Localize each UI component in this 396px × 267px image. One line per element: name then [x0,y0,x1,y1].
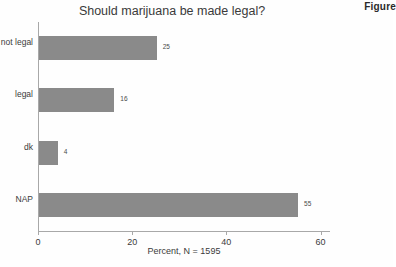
category-label-not-legal: not legal [0,37,33,47]
x-tick-mark [321,231,322,235]
bar-dk [39,141,58,165]
category-label-dk: dk [0,142,33,152]
category-label-nap: NAP [0,194,33,204]
bar-not-legal [39,36,157,60]
figure-caption: Figure [364,1,396,12]
bar-value-label: 55 [304,200,311,207]
bar-chart-figure: Should marijuana be made legal? 2516455 … [0,0,340,267]
bar-value-label: 4 [64,148,68,155]
x-axis-caption: Percent, N = 1595 [38,246,330,256]
x-tick-mark [226,231,227,235]
x-tick-mark [132,231,133,235]
bar-value-label: 25 [163,43,170,50]
plot-area: 2516455 0204060 not legallegaldkNAP [38,22,330,231]
x-axis-line [38,231,330,232]
x-tick-mark [38,231,39,235]
chart-title: Should marijuana be made legal? [38,4,306,18]
category-label-legal: legal [0,89,33,99]
bar-legal [39,88,114,112]
bar-nap [39,193,298,217]
bar-value-label: 16 [120,95,127,102]
